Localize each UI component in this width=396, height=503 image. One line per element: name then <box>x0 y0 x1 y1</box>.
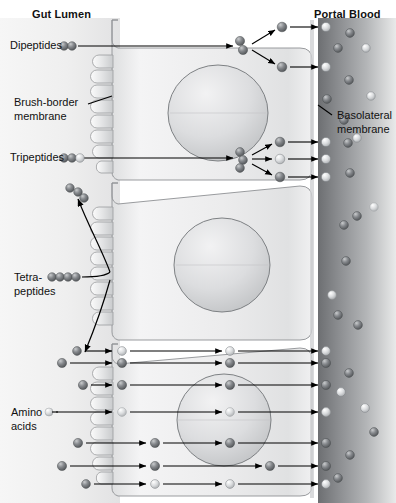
label-brush-border-line2: membrane <box>14 109 78 123</box>
basolateral-membrane <box>310 20 314 498</box>
bead-aa-tripep-3 <box>275 172 285 182</box>
label-amino-line2: acids <box>11 419 42 433</box>
bead-tripeptide-b <box>239 156 248 165</box>
label-amino-acids: Amino acids <box>11 405 42 433</box>
bead-released-tri-1 <box>66 184 75 193</box>
bead-blood-dipep-1 <box>321 22 330 31</box>
label-basolateral-line2: membrane <box>337 122 392 136</box>
portal-blood-header: Portal Blood <box>314 8 381 20</box>
bead-blood-tripep-3 <box>321 172 330 181</box>
bead-aa-dipep-1 <box>277 22 287 32</box>
gut-lumen-header: Gut Lumen <box>32 8 91 20</box>
label-basolateral-membrane: Basolateral membrane <box>337 108 392 136</box>
diagram-canvas: Gut Lumen Portal Blood Dipeptides Brush-… <box>0 0 396 503</box>
label-tetra-line1: Tetra- <box>14 270 56 284</box>
bead-aa-tripep-2 <box>275 154 285 164</box>
label-brush-border-membrane: Brush-border membrane <box>14 95 78 123</box>
label-tetra-line2: peptides <box>14 284 56 298</box>
diagram-svg <box>0 0 396 503</box>
bead-blood-dipep-2 <box>321 62 330 71</box>
bead-dipeptide-b <box>238 45 247 54</box>
label-tripeptides: Tripeptides <box>10 151 64 164</box>
bead-blood-tripep-1 <box>321 137 330 146</box>
enterocyte-middle <box>112 183 312 340</box>
bead-released-tri-3 <box>80 194 89 203</box>
bead-dipeptide-a <box>235 36 244 45</box>
portal-blood-region <box>318 18 396 503</box>
bead-aa-tripep-1 <box>275 137 285 147</box>
bead-blood-tripep-2 <box>321 154 330 163</box>
bead-tripeptide-c <box>236 164 245 173</box>
label-dipeptides: Dipeptides <box>10 39 62 52</box>
label-basolateral-line1: Basolateral <box>337 108 392 122</box>
bead-aa-dipep-2 <box>277 62 287 72</box>
label-amino-line1: Amino <box>11 405 42 419</box>
enterocyte-bottom <box>112 344 312 496</box>
bead-tripeptide-a <box>236 148 245 157</box>
label-tetrapeptides: Tetra- peptides <box>14 270 56 298</box>
label-brush-border-line1: Brush-border <box>14 95 78 109</box>
